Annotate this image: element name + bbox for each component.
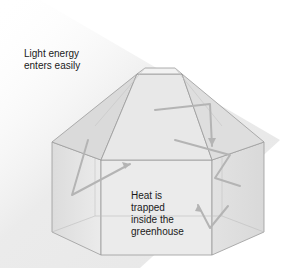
roof-vent bbox=[137, 68, 182, 74]
light-energy-label: Light energy enters easily bbox=[24, 48, 80, 72]
heat-trapped-label: Heat is trapped inside the greenhouse bbox=[131, 190, 184, 238]
